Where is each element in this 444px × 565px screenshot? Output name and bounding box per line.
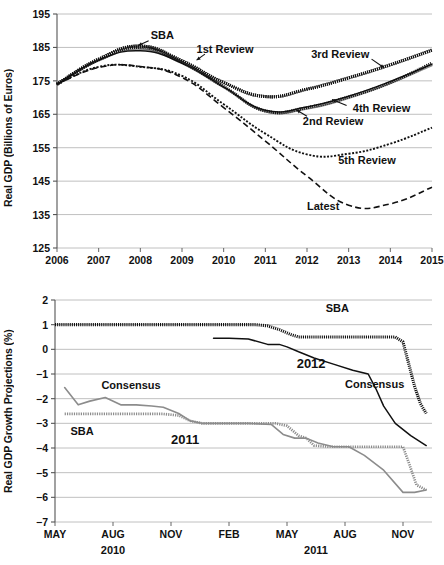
y-tick-label: 1: [42, 319, 48, 331]
series-annotation-consensus-2011: Consensus: [101, 379, 160, 391]
x-tick-label: 2015: [420, 254, 443, 266]
series-annotation-sba: SBA: [151, 29, 174, 41]
y-tick-label: 155: [32, 142, 50, 154]
x-tick-label: 2011: [254, 254, 277, 266]
panel-growth-projections: Real GDP Growth Projections (%) 210−1−2−…: [0, 282, 438, 565]
y-tick-label: 135: [32, 209, 50, 221]
series-annotation-latest: Latest: [307, 200, 339, 212]
series-line: [214, 338, 427, 445]
x-tick-label: 2008: [129, 254, 152, 266]
y-tick-label: 175: [32, 75, 50, 87]
y-tick-label: 165: [32, 108, 50, 120]
y-tick-label: 0: [42, 343, 48, 355]
x-tick-label: FEB: [219, 528, 240, 540]
x-tick-label: 2009: [170, 254, 193, 266]
series-line: [65, 414, 427, 490]
series-annotation-second-review: 2nd Review: [303, 115, 364, 127]
chart-canvas-bottom: [55, 300, 432, 522]
series-annotation-sba-2011: SBA: [70, 425, 93, 437]
series-annotation-year-2011: 2011: [171, 432, 199, 447]
series-line: [65, 388, 427, 493]
x-group-label: 2011: [304, 544, 328, 556]
y-tick-label: −5: [36, 467, 48, 479]
x-tick-label: 2006: [45, 254, 68, 266]
x-tick-label: 2014: [379, 254, 402, 266]
x-tick-label: 2013: [337, 254, 360, 266]
x-group-label: 2010: [101, 544, 125, 556]
y-tick-label: 125: [32, 242, 50, 254]
y-tick-label: −4: [36, 442, 48, 454]
plot-area-bottom: [55, 300, 432, 522]
x-tick-label: 2012: [295, 254, 318, 266]
x-tick-label: MAY: [44, 528, 66, 540]
series-annotation-third-review: 3rd Review: [311, 48, 369, 60]
y-tick-label: 145: [32, 175, 50, 187]
y-tick-label: −3: [36, 417, 48, 429]
y-tick-label: 2: [42, 294, 48, 306]
y-tick-label: −7: [36, 516, 48, 528]
x-tick-label: AUG: [333, 528, 356, 540]
series-annotation-fourth-review: 4th Review: [353, 102, 410, 114]
y-tick-label: 185: [32, 41, 50, 53]
y-tick-label: −6: [36, 491, 48, 503]
series-annotation-consensus-2012: Consensus: [345, 378, 404, 390]
y-tick-label: 195: [32, 8, 50, 20]
x-tick-label: NOV: [160, 528, 183, 540]
x-tick-label: 2007: [87, 254, 110, 266]
y-axis-title-bottom: Real GDP Growth Projections (%): [2, 304, 14, 519]
x-tick-label: NOV: [392, 528, 415, 540]
series-annotation-year-2012: 2012: [297, 356, 326, 371]
x-tick-label: AUG: [101, 528, 124, 540]
x-tick-label: MAY: [276, 528, 298, 540]
series-annotation-sba-2012: SBA: [326, 302, 349, 314]
series-annotation-first-review: 1st Review: [197, 43, 254, 55]
panel-real-gdp-levels: Real GDP (Billions of Euros) 19518517516…: [0, 0, 438, 282]
y-axis-title-top: Real GDP (Billions of Euros): [2, 38, 14, 238]
y-tick-label: −2: [36, 393, 48, 405]
series-annotation-fifth-review: 5th Review: [338, 154, 395, 166]
y-tick-label: −1: [36, 368, 48, 380]
x-tick-label: 2010: [212, 254, 235, 266]
